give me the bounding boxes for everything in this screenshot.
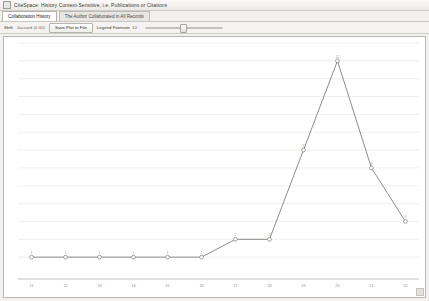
data-point[interactable] bbox=[64, 255, 68, 259]
data-point-label: 2 bbox=[235, 233, 237, 237]
shift-value: Jaccard (0.00) bbox=[17, 25, 45, 30]
x-tick-label: 21 bbox=[369, 284, 373, 288]
data-point-label: 1 bbox=[31, 251, 33, 255]
data-point-label: 6 bbox=[370, 162, 372, 166]
data-point[interactable] bbox=[166, 255, 170, 259]
x-tick-label: 18 bbox=[267, 284, 271, 288]
data-point[interactable] bbox=[30, 255, 34, 259]
x-tick-label: 11 bbox=[30, 284, 34, 288]
data-point[interactable] bbox=[200, 255, 204, 259]
x-tick-label: 14 bbox=[131, 284, 135, 288]
toolbar: Shift Jaccard (0.00) Save Plot to File L… bbox=[0, 22, 429, 34]
x-tick-label: 17 bbox=[233, 284, 237, 288]
zoom-slider[interactable] bbox=[145, 24, 223, 32]
x-tick-label: 22 bbox=[403, 284, 407, 288]
data-point-label: 1 bbox=[133, 251, 135, 255]
tab-collaboration-history[interactable]: Collaboration History bbox=[2, 11, 57, 21]
chart-svg: 1111112271263111213141516171819202122 bbox=[4, 37, 425, 297]
resize-grip[interactable] bbox=[416, 288, 424, 296]
legend-footnote-control[interactable]: Legend Footnote 10 bbox=[97, 25, 137, 30]
data-point[interactable] bbox=[404, 220, 408, 224]
data-point-label: 1 bbox=[201, 251, 203, 255]
x-tick-label: 19 bbox=[301, 284, 305, 288]
data-point[interactable] bbox=[336, 59, 340, 63]
series-line bbox=[32, 61, 406, 257]
data-point-label: 1 bbox=[65, 251, 67, 255]
save-plot-to-file-button[interactable]: Save Plot to File bbox=[49, 23, 93, 33]
shift-label: Shift bbox=[4, 25, 13, 30]
data-point-label: 2 bbox=[269, 233, 271, 237]
data-point-label: 1 bbox=[167, 251, 169, 255]
legend-footnote-label: Legend Footnote bbox=[97, 25, 130, 30]
x-tick-label: 20 bbox=[335, 284, 339, 288]
window-icon bbox=[3, 1, 11, 9]
window-title: CiteSpace: History Context-Sensitive, i.… bbox=[14, 2, 167, 8]
data-point[interactable] bbox=[370, 166, 374, 170]
data-point[interactable] bbox=[132, 255, 136, 259]
title-bar: CiteSpace: History Context-Sensitive, i.… bbox=[0, 0, 429, 11]
slider-thumb[interactable] bbox=[180, 24, 187, 33]
data-point-label: 3 bbox=[404, 215, 406, 219]
data-point-label: 7 bbox=[303, 144, 305, 148]
data-point[interactable] bbox=[302, 148, 306, 152]
x-tick-label: 13 bbox=[97, 284, 101, 288]
data-point-label: 1 bbox=[99, 251, 101, 255]
x-tick-label: 16 bbox=[199, 284, 203, 288]
data-point[interactable] bbox=[234, 237, 238, 241]
data-point[interactable] bbox=[268, 237, 272, 241]
x-tick-label: 15 bbox=[165, 284, 169, 288]
chart-panel: 1111112271263111213141516171819202122 bbox=[3, 36, 426, 298]
data-point-label: 12 bbox=[336, 55, 340, 59]
application-window: CiteSpace: History Context-Sensitive, i.… bbox=[0, 0, 429, 301]
line-chart: 1111112271263111213141516171819202122 bbox=[4, 37, 425, 297]
legend-footnote-value: 10 bbox=[132, 25, 137, 30]
tab-strip: Collaboration History The Author Collabo… bbox=[0, 11, 429, 22]
data-point[interactable] bbox=[98, 255, 102, 259]
x-tick-label: 12 bbox=[63, 284, 67, 288]
tab-author-collaborated-all-records[interactable]: The Author Collaborated in All Records bbox=[59, 11, 150, 21]
